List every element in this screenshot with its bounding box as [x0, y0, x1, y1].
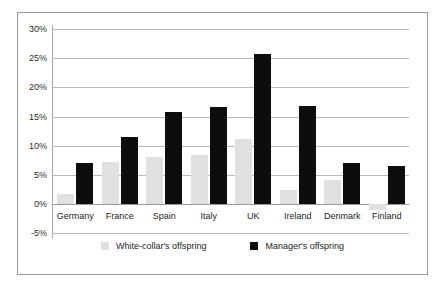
y-axis-tick-label: 0%	[34, 199, 47, 209]
bar-spain-manager	[165, 112, 182, 204]
bar-group	[142, 29, 187, 204]
x-axis-tick-label-france: France	[98, 211, 143, 221]
bar-denmark-white-collar	[324, 180, 341, 205]
bar-france-white-collar	[102, 162, 119, 204]
x-axis-tick-label-germany: Germany	[53, 211, 98, 221]
bar-finland-manager	[388, 166, 405, 204]
x-axis-tick-label-uk: UK	[231, 211, 276, 221]
bar-italy-white-collar	[191, 155, 208, 204]
bar-group	[187, 29, 232, 204]
bar-denmark-manager	[343, 163, 360, 204]
x-axis-tick-label-spain: Spain	[142, 211, 187, 221]
bar-group	[231, 29, 276, 204]
y-axis-tick-label: -5%	[31, 228, 47, 238]
y-axis-tick-label: 10%	[29, 141, 47, 151]
bar-group	[53, 29, 98, 204]
legend-swatch-icon	[250, 242, 258, 250]
bar-uk-manager	[254, 54, 271, 205]
bar-group	[98, 29, 143, 204]
bar-france-manager	[121, 137, 138, 204]
bar-germany-manager	[76, 163, 93, 204]
bar-group	[276, 29, 321, 204]
y-axis-tick-label: 5%	[34, 170, 47, 180]
y-axis-tick-label: 15%	[29, 112, 47, 122]
bar-finland-white-collar	[369, 204, 386, 210]
y-axis-tick-label: 25%	[29, 53, 47, 63]
legend-item-white-collar[interactable]: White-collar's offspring	[101, 241, 207, 251]
bar-germany-white-collar	[57, 194, 74, 205]
x-axis-tick-label-italy: Italy	[187, 211, 232, 221]
legend-swatch-icon	[101, 242, 109, 250]
plot-area: 30%25%20%15%10%5%0%-5% GermanyFranceSpai…	[53, 29, 409, 204]
legend-label: Manager's offspring	[265, 241, 344, 251]
bar-ireland-white-collar	[280, 190, 297, 204]
gridline	[53, 233, 409, 234]
legend-item-manager[interactable]: Manager's offspring	[250, 241, 344, 251]
y-axis-tick-label: 30%	[29, 24, 47, 34]
x-axis-tick-label-finland: Finland	[365, 211, 410, 221]
legend-label: White-collar's offspring	[116, 241, 207, 251]
chart-legend: White-collar's offspringManager's offspr…	[18, 241, 427, 251]
bar-group	[320, 29, 365, 204]
bar-ireland-manager	[299, 106, 316, 204]
bar-spain-white-collar	[146, 157, 163, 204]
x-axis-tick-label-denmark: Denmark	[320, 211, 365, 221]
gridline	[53, 204, 409, 205]
bar-group	[365, 29, 410, 204]
x-axis-tick-label-ireland: Ireland	[276, 211, 321, 221]
chart-container: 30%25%20%15%10%5%0%-5% GermanyFranceSpai…	[17, 12, 428, 275]
bar-italy-manager	[210, 107, 227, 204]
bar-uk-white-collar	[235, 139, 252, 204]
y-axis-tick-label: 20%	[29, 82, 47, 92]
